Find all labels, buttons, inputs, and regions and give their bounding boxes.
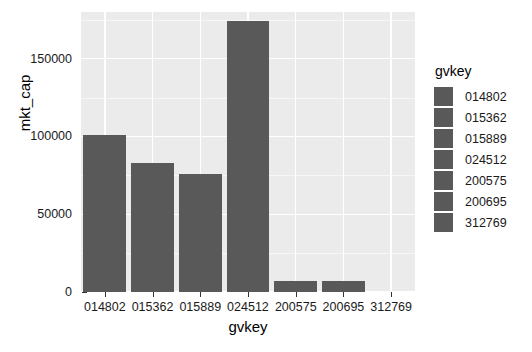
legend-key-swatch <box>433 107 454 128</box>
legend-item[interactable]: 015362 <box>433 107 529 128</box>
x-axis-tick-label: 200575 <box>272 300 320 314</box>
gridline-major-vertical <box>295 12 296 292</box>
legend-item-label: 024512 <box>465 153 507 167</box>
bar <box>83 135 126 292</box>
bar-chart: mkt_cap 050000100000150000 gvkey gvkey 0… <box>0 0 532 352</box>
x-axis-tick-label: 014802 <box>81 300 129 314</box>
legend-key-swatch <box>433 149 454 170</box>
legend-item[interactable]: 200695 <box>433 191 529 212</box>
x-axis-tick-label: 312769 <box>367 300 415 314</box>
x-axis-tick-label: 200695 <box>320 300 368 314</box>
legend: gvkey 0148020153620158890245122005752006… <box>433 62 529 233</box>
x-axis-tick-mark <box>296 292 297 297</box>
y-axis-tick-label: 150000 <box>10 53 72 65</box>
bar <box>227 21 270 292</box>
bar <box>131 163 174 292</box>
legend-item[interactable]: 024512 <box>433 149 529 170</box>
legend-key-swatch <box>433 128 454 149</box>
legend-item-label: 015362 <box>465 111 507 125</box>
legend-key-color <box>434 87 453 106</box>
gridline-major-vertical <box>343 12 344 292</box>
legend-items: 0148020153620158890245122005752006953127… <box>433 86 529 233</box>
x-axis-tick-mark <box>248 292 249 297</box>
y-axis-ticks: 050000100000150000 <box>8 0 72 352</box>
legend-key-color <box>434 108 453 127</box>
legend-key-swatch <box>433 191 454 212</box>
legend-title: gvkey <box>433 62 529 80</box>
legend-item[interactable]: 200575 <box>433 170 529 191</box>
legend-item[interactable]: 014802 <box>433 86 529 107</box>
legend-key-swatch <box>433 170 454 191</box>
legend-item-label: 015889 <box>465 132 507 146</box>
plot-panel <box>81 12 415 292</box>
x-axis-tick-mark <box>153 292 154 297</box>
x-axis-tick-mark <box>105 292 106 297</box>
gridline-major-vertical <box>390 12 391 292</box>
legend-item[interactable]: 015889 <box>433 128 529 149</box>
y-axis-tick-label: 100000 <box>10 130 72 142</box>
x-axis-title: gvkey <box>81 318 415 336</box>
y-axis-tick-label: 50000 <box>10 208 72 220</box>
y-axis-tick-mark <box>82 292 87 293</box>
legend-key-swatch <box>433 86 454 107</box>
legend-key-color <box>434 129 453 148</box>
legend-item-label: 312769 <box>465 216 507 230</box>
x-axis-tick-mark <box>343 292 344 297</box>
y-axis-tick-label: 0 <box>10 286 72 298</box>
legend-item-label: 014802 <box>465 90 507 104</box>
legend-key-color <box>434 192 453 211</box>
legend-key-color <box>434 150 453 169</box>
x-axis-tick-mark <box>391 292 392 297</box>
legend-key-swatch <box>433 212 454 233</box>
bar <box>322 281 365 293</box>
x-axis-tick-label: 024512 <box>224 300 272 314</box>
legend-key-color <box>434 213 453 232</box>
bar <box>179 174 222 292</box>
bar <box>274 281 317 293</box>
legend-item[interactable]: 312769 <box>433 212 529 233</box>
x-axis-tick-mark <box>200 292 201 297</box>
x-axis-tick-label: 015362 <box>129 300 177 314</box>
legend-item-label: 200695 <box>465 195 507 209</box>
legend-key-color <box>434 171 453 190</box>
legend-item-label: 200575 <box>465 174 507 188</box>
x-axis-tick-label: 015889 <box>176 300 224 314</box>
